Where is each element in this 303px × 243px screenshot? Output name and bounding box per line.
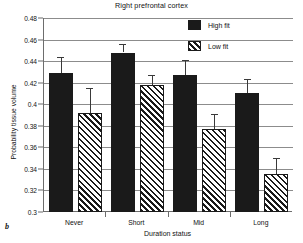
y-axis-tick-label: 0.36 (24, 144, 37, 151)
bar (264, 174, 288, 212)
y-axis-tick-label: 0.44 (24, 58, 37, 65)
legend-label: High fit (208, 22, 230, 29)
legend-swatch-high-fit (188, 20, 201, 30)
bar-group (44, 18, 106, 212)
x-axis-tick-mark (230, 212, 231, 217)
error-bar (185, 60, 186, 75)
y-axis-tick-label: 0.38 (24, 122, 37, 129)
legend-swatch-low-fit (188, 41, 201, 51)
x-axis-tick-label: Short (128, 219, 144, 226)
y-axis-tick-label: 0.46 (24, 36, 37, 43)
x-axis-tick-label: Never (65, 219, 83, 226)
y-axis-tick-label: 0.42 (24, 79, 37, 86)
bar (49, 73, 73, 212)
y-axis-tick-labels: 0.30.320.340.360.380.40.420.440.460.48 (0, 18, 43, 212)
y-axis-tick-label: 0.3 (28, 209, 37, 216)
error-bar-cap (119, 44, 126, 45)
x-axis-title: Duration status (43, 230, 292, 237)
error-bar (247, 79, 248, 93)
error-bar-cap (211, 114, 218, 115)
legend: High fitLow fit (188, 20, 288, 62)
panel-label: b (5, 222, 9, 231)
x-axis-tick-mark (168, 212, 169, 217)
bar (140, 85, 164, 212)
error-bar-cap (57, 57, 64, 58)
y-axis-tick-label: 0.34 (24, 165, 37, 172)
bar-group (106, 18, 168, 212)
chart-title: Right prefrontal cortex (0, 1, 303, 10)
x-axis-tick-label: Long (253, 219, 268, 226)
y-axis-tick-label: 0.32 (24, 187, 37, 194)
error-bar-cap (86, 88, 93, 89)
error-bar (276, 158, 277, 174)
error-bar (123, 44, 124, 53)
legend-label: Low fit (208, 43, 228, 50)
x-axis-tick-label: Mid (193, 219, 204, 226)
figure-panel-b: Right prefrontal cortex 0.30.320.340.360… (0, 0, 303, 243)
x-axis-tick-labels: NeverShortMidLong (43, 212, 292, 230)
error-bar (90, 88, 91, 113)
error-bar-cap (273, 158, 280, 159)
x-axis-tick-mark (105, 212, 106, 217)
bar (173, 75, 197, 212)
error-bar (214, 114, 215, 129)
error-bar (61, 57, 62, 73)
legend-item: High fit (188, 20, 288, 30)
bar (235, 93, 259, 212)
y-axis-tick-label: 0.48 (24, 15, 37, 22)
bar (111, 53, 135, 213)
legend-item: Low fit (188, 41, 288, 51)
error-bar-cap (244, 79, 251, 80)
bar (78, 113, 102, 212)
y-axis-tick-label: 0.4 (28, 101, 37, 108)
error-bar-cap (148, 75, 155, 76)
bar (202, 129, 226, 212)
error-bar (152, 75, 153, 85)
y-axis-title: Probability tissue volume (10, 47, 17, 197)
